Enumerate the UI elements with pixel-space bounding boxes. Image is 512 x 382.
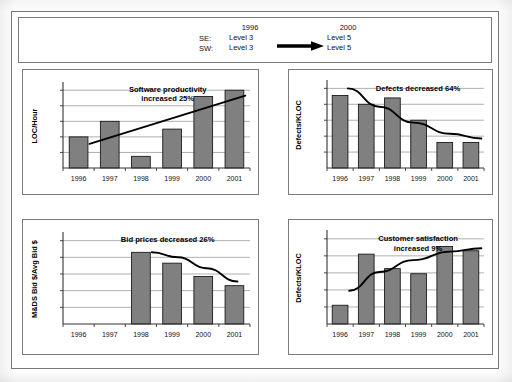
x-axis-tick-label: 1997: [102, 331, 118, 338]
chart-title: increased 25%: [141, 94, 194, 103]
maturity-row-label-sw: SW:: [199, 44, 213, 54]
maturity-after-year: 2000: [327, 23, 369, 33]
chart-title: increased 9%: [394, 244, 443, 253]
x-axis-tick-label: 2000: [437, 175, 453, 182]
x-axis-tick-label: 1997: [102, 175, 118, 182]
maturity-before-se-level: Level 3: [229, 33, 271, 43]
y-axis-label: Defects/KLOC: [294, 99, 303, 149]
maturity-level-header-box: SE: SW: 1996 Level 3 Level 3 2000 Level …: [18, 17, 492, 63]
x-axis-tick-label: 1999: [411, 175, 427, 182]
chart-panel-defects-decreased: 199619971998199920002001Defects/KLOCDefe…: [288, 69, 493, 195]
y-axis-label: LOC/Hour: [30, 108, 39, 143]
x-axis-tick-label: 2000: [195, 331, 211, 338]
x-axis-tick-label: 1998: [133, 331, 149, 338]
x-axis-tick-label: 2001: [463, 331, 479, 338]
x-axis-tick-label: 1999: [411, 331, 427, 338]
x-axis-tick-label: 1999: [164, 175, 180, 182]
x-axis-tick-label: 1997: [358, 175, 374, 182]
x-axis-tick-label: 1998: [133, 175, 149, 182]
chart-title: Customer satisfaction: [378, 234, 458, 243]
chart-panel-software-productivity: 199619971998199920002001LOC/HourSoftware…: [22, 69, 259, 195]
x-axis-tick-label: 1998: [385, 331, 401, 338]
chart-title: Software productivity: [129, 85, 207, 94]
y-axis-label: M&DS Bid $/Avg Bid $: [30, 240, 39, 318]
chart-panel-customer-satisfaction: 199619971998199920002001Defects/KLOCCust…: [288, 219, 493, 355]
x-axis-tick-label: 1999: [164, 331, 180, 338]
x-axis-tick-label: 2001: [463, 175, 479, 182]
chart-title: Defects decreased 64%: [376, 84, 461, 93]
x-axis-tick-label: 1996: [332, 175, 348, 182]
x-axis-tick-label: 1997: [358, 331, 374, 338]
chart-plot-area-0: 199619971998199920002001LOC/HourSoftware…: [23, 70, 258, 194]
chart-title: Bid prices decreased 26%: [121, 235, 215, 244]
chart-plot-area-2: 199619971998199920002001M&DS Bid $/Avg B…: [23, 220, 258, 354]
maturity-row-labels: SE: SW:: [199, 34, 213, 54]
chart-panel-bid-prices: 199619971998199920002001M&DS Bid $/Avg B…: [22, 219, 259, 355]
x-axis-tick-label: 1996: [71, 175, 87, 182]
maturity-before-year: 1996: [229, 23, 271, 33]
maturity-level-table: SE: SW: 1996 Level 3 Level 3 2000 Level …: [199, 22, 429, 62]
maturity-row-label-se: SE:: [199, 34, 213, 44]
y-axis-label: Defects/KLOC: [294, 252, 303, 302]
x-axis-tick-label: 1996: [332, 331, 348, 338]
document-page: SE: SW: 1996 Level 3 Level 3 2000 Level …: [0, 0, 512, 382]
x-axis-tick-label: 1998: [385, 175, 401, 182]
maturity-column-after: 2000 Level 5 Level 5: [327, 23, 369, 53]
maturity-after-se-level: Level 5: [327, 33, 369, 43]
maturity-column-before: 1996 Level 3 Level 3: [229, 23, 271, 53]
chart-plot-area-3: 199619971998199920002001Defects/KLOCCust…: [289, 220, 492, 354]
x-axis-tick-label: 2001: [227, 175, 243, 182]
x-axis-tick-label: 2001: [227, 331, 243, 338]
x-axis-tick-label: 2000: [437, 331, 453, 338]
x-axis-tick-label: 2000: [195, 175, 211, 182]
x-axis-tick-label: 1996: [71, 331, 87, 338]
chart-plot-area-1: 199619971998199920002001Defects/KLOCDefe…: [289, 70, 492, 194]
maturity-after-sw-level: Level 5: [327, 43, 369, 53]
right-arrow-icon: [277, 41, 325, 51]
maturity-before-sw-level: Level 3: [229, 43, 271, 53]
